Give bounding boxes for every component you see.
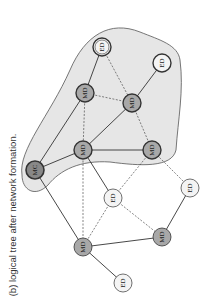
network-diagram: MCMDMDMDMDEDEDEDEDMDMDED — [0, 0, 210, 296]
node-label: MD — [158, 231, 166, 242]
node-label: MD — [128, 97, 136, 108]
node-label: ED — [109, 193, 117, 202]
node-md3: MD — [123, 94, 141, 112]
node-mc: MC — [26, 161, 44, 179]
node-label: MD — [81, 87, 89, 98]
node-label: MD — [148, 144, 156, 155]
node-label: MD — [79, 144, 87, 155]
node-ed3: ED — [104, 189, 122, 207]
node-md2: MD — [74, 141, 92, 159]
node-label: MC — [31, 164, 39, 175]
node-md4: MD — [143, 141, 161, 159]
node-ed4: ED — [181, 179, 199, 197]
node-label: ED — [119, 278, 127, 287]
node-ed1: ED — [93, 38, 111, 56]
edge-md5-md6 — [83, 237, 162, 247]
node-ed2: ED — [153, 54, 171, 72]
node-label: ED — [98, 42, 106, 51]
node-label: ED — [158, 58, 166, 67]
figure-caption: (b) logical tree after network formation… — [7, 134, 18, 296]
node-md6: MD — [153, 228, 171, 246]
edge-mc-md5 — [35, 170, 83, 247]
node-label: ED — [186, 183, 194, 192]
node-label: MD — [79, 241, 87, 252]
node-md1: MD — [76, 84, 94, 102]
node-ed5: ED — [114, 274, 132, 292]
node-md5: MD — [74, 238, 92, 256]
